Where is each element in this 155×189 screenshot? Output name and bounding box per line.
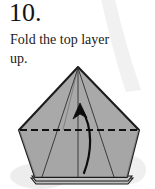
step-number: 10. (9, 0, 42, 28)
instruction-text: Fold the top layer up. (10, 30, 110, 68)
origami-instruction-page: 10. Fold the top layer up. (0, 0, 155, 189)
lower-panel-shading (19, 130, 139, 177)
origami-diagram (0, 0, 155, 189)
